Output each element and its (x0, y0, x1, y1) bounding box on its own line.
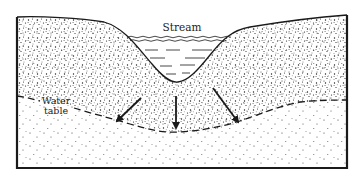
stream-label: Stream (163, 21, 202, 33)
water-table-label-line2: table (44, 105, 69, 116)
stream-water-table-diagram: Stream Water table (0, 0, 363, 185)
